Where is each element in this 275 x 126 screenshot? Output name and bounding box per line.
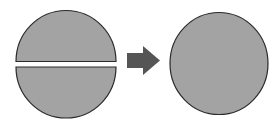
whole-circle bbox=[170, 13, 268, 115]
top-half-circle bbox=[16, 11, 116, 62]
right-arrow-icon bbox=[127, 46, 160, 75]
merge-diagram bbox=[0, 0, 275, 126]
bottom-half-circle bbox=[16, 67, 116, 118]
